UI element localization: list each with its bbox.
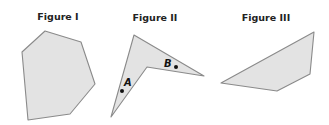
- figure-2: Figure II A B: [111, 12, 204, 117]
- figure-3-polygon: [221, 32, 314, 91]
- point-b-dot: [174, 65, 178, 69]
- figures-svg: Figure I Figure II A B Figure III: [0, 0, 329, 125]
- figure-3-title: Figure III: [242, 12, 290, 23]
- figure-1-title: Figure I: [37, 11, 78, 22]
- point-a-dot: [120, 89, 124, 93]
- figure-3: Figure III: [221, 12, 314, 91]
- point-b-label: B: [164, 58, 172, 69]
- figure-2-title: Figure II: [133, 12, 178, 23]
- figure-1-polygon: [22, 31, 95, 120]
- point-a-label: A: [123, 77, 132, 88]
- figure-1: Figure I: [22, 11, 95, 120]
- figure-2-polygon: [111, 35, 204, 117]
- figure-panel: Figure I Figure II A B Figure III: [0, 0, 329, 125]
